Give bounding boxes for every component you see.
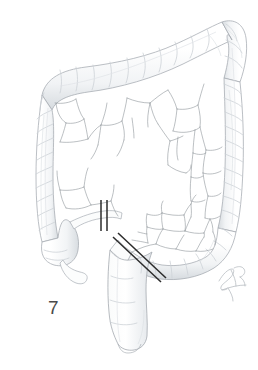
figure-number-label: 7 bbox=[48, 298, 59, 317]
large-intestine-illustration bbox=[0, 0, 258, 370]
figure-container: 7 bbox=[0, 0, 258, 370]
rectum-body bbox=[108, 250, 152, 350]
